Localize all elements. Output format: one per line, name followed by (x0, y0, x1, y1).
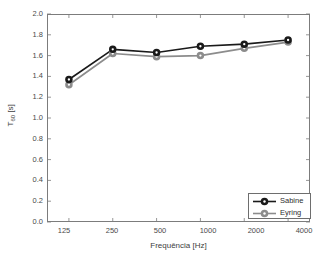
ytick-label: 0.8 (19, 135, 43, 143)
xtick-label: 4000 (287, 227, 321, 235)
ytick-label: 1.0 (19, 114, 43, 122)
legend-label-eyring: Eyring (280, 208, 301, 217)
xtick-label: 125 (47, 227, 81, 235)
ytick-label: 1.4 (19, 72, 43, 80)
ytick-label: 0.4 (19, 176, 43, 184)
legend-label-sabine: Sabine (280, 196, 303, 205)
ytick-label: 0.2 (19, 197, 43, 205)
ytick-label: 0.0 (19, 218, 43, 226)
ytick-label: 1.8 (19, 31, 43, 39)
xtick-label: 500 (143, 227, 177, 235)
x-axis-label: Frequência [Hz] (47, 241, 310, 250)
y-axis-label-base: T (6, 122, 15, 127)
y-axis-label: T60 [s] (6, 80, 17, 150)
ytick-label: 1.6 (19, 52, 43, 60)
ytick-label: 1.2 (19, 93, 43, 101)
chart-legend[interactable]: Sabine Eyring (248, 193, 311, 219)
xtick-label: 2000 (239, 227, 273, 235)
y-axis-label-unit: [s] (6, 104, 15, 115)
legend-entry-eyring[interactable]: Eyring (249, 206, 312, 219)
plot-area (47, 14, 310, 222)
ytick-label: 2.0 (19, 10, 43, 18)
y-axis-label-subscript: 60 (10, 115, 16, 122)
xtick-label: 250 (95, 227, 129, 235)
ytick-label: 0.6 (19, 156, 43, 164)
figure-canvas: 2.0 1.8 1.6 1.4 1.2 1.0 0.8 0.6 0.4 0.2 … (0, 0, 327, 259)
xtick-label: 1000 (191, 227, 225, 235)
